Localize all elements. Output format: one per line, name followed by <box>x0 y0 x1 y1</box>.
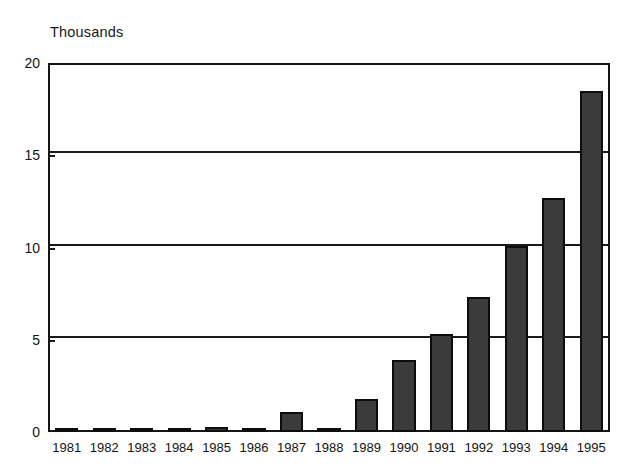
x-tick-label: 1987 <box>273 440 310 455</box>
bar-slot <box>423 63 460 432</box>
y-tick-mark <box>48 155 55 157</box>
bar-slot <box>498 63 535 432</box>
x-tick-label: 1984 <box>160 440 197 455</box>
y-tick-label: 0 <box>0 424 40 440</box>
x-tick-label: 1992 <box>460 440 497 455</box>
y-tick-mark <box>48 248 55 250</box>
y-tick-mark <box>48 340 55 342</box>
bar <box>467 297 490 432</box>
bar <box>317 428 340 432</box>
x-tick-label: 1994 <box>535 440 572 455</box>
x-tick-label: 1995 <box>573 440 610 455</box>
x-tick-label: 1988 <box>310 440 347 455</box>
y-tick-label: 15 <box>0 147 40 163</box>
bar-slot <box>310 63 347 432</box>
y-axis: 05101520 <box>0 63 40 432</box>
bar <box>168 428 191 432</box>
x-tick-label: 1982 <box>85 440 122 455</box>
bar <box>280 412 303 432</box>
x-tick-label: 1989 <box>348 440 385 455</box>
x-axis: 1981198219831984198519861987198819891990… <box>48 440 610 464</box>
bar-slot <box>535 63 572 432</box>
bar <box>392 360 415 432</box>
bar-slot <box>348 63 385 432</box>
y-tick-label: 5 <box>0 332 40 348</box>
x-tick-label: 1991 <box>423 440 460 455</box>
bar-slot <box>273 63 310 432</box>
y-tick-label: 20 <box>0 55 40 71</box>
y-tick-label: 10 <box>0 240 40 256</box>
bar-slot <box>85 63 122 432</box>
bar-slot <box>460 63 497 432</box>
bar-slot <box>573 63 610 432</box>
x-tick-label: 1986 <box>235 440 272 455</box>
bar <box>542 198 565 432</box>
bar <box>205 427 228 432</box>
bar <box>505 246 528 432</box>
chart-title: Thousands <box>50 24 124 40</box>
bar-slot <box>160 63 197 432</box>
bar <box>93 428 116 432</box>
bar <box>242 428 265 432</box>
bar-series <box>48 63 610 432</box>
bar <box>580 91 603 432</box>
bar-slot <box>235 63 272 432</box>
x-tick-label: 1993 <box>498 440 535 455</box>
x-tick-label: 1981 <box>48 440 85 455</box>
x-tick-label: 1983 <box>123 440 160 455</box>
bar-chart-figure: Thousands 05101520 198119821983198419851… <box>0 0 641 476</box>
x-tick-label: 1985 <box>198 440 235 455</box>
bar <box>355 399 378 432</box>
bar <box>130 428 153 432</box>
bar-slot <box>198 63 235 432</box>
bar-slot <box>385 63 422 432</box>
x-tick-label: 1990 <box>385 440 422 455</box>
bar <box>430 334 453 432</box>
bar <box>55 428 78 432</box>
bar-slot <box>123 63 160 432</box>
